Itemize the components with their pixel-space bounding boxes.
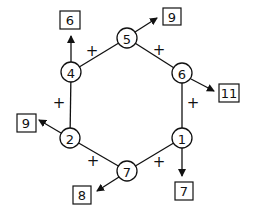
svg-text:2: 2: [66, 132, 74, 147]
node-4: 4: [61, 62, 81, 82]
node-6: 6: [172, 63, 192, 83]
result-box-11: 11: [219, 84, 239, 102]
result-box-8: 8: [73, 186, 91, 204]
result-box-9-top: 9: [163, 8, 181, 25]
result-box-9-left: 9: [17, 114, 36, 132]
result-box-6: 6: [60, 11, 80, 29]
svg-text:1: 1: [178, 132, 186, 147]
svg-text:11: 11: [221, 86, 238, 101]
plus-sign-1-7: +: [153, 153, 166, 171]
arrow-6-to-box: [191, 79, 214, 91]
node-2: 2: [60, 128, 80, 148]
plus-sign-4-5: +: [86, 42, 99, 60]
plus-sign-5-6: +: [153, 41, 166, 59]
result-box-7: 7: [175, 182, 193, 200]
svg-text:6: 6: [66, 13, 74, 28]
node-5: 5: [117, 28, 137, 48]
plus-sign-2-4: +: [53, 94, 66, 112]
svg-text:6: 6: [178, 67, 186, 82]
node-7: 7: [117, 161, 137, 181]
arrow-2-to-box: [39, 120, 61, 133]
node-1: 1: [172, 128, 192, 148]
arrow-5-to-box: [135, 18, 157, 32]
svg-text:7: 7: [123, 165, 131, 180]
svg-text:9: 9: [168, 10, 176, 25]
svg-text:9: 9: [22, 116, 30, 131]
svg-text:5: 5: [123, 32, 131, 47]
plus-sign-7-2: +: [87, 152, 100, 170]
arrow-7-to-box: [97, 177, 119, 191]
svg-text:8: 8: [78, 188, 86, 203]
svg-text:4: 4: [67, 66, 75, 81]
hexagon-sum-diagram: + + + + + + 4 5 6 1 7 2 6 9: [0, 0, 254, 217]
plus-sign-6-1: +: [187, 94, 200, 112]
svg-text:7: 7: [180, 184, 188, 199]
